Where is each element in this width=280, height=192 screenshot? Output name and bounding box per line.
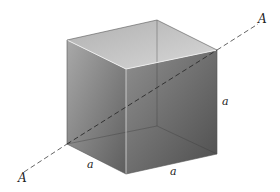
edge-label-depth: a xyxy=(87,158,94,171)
cube-diagram: A A a a a xyxy=(0,0,280,192)
axis-line-upper xyxy=(217,24,258,50)
edge-label-width: a xyxy=(170,165,177,178)
axis-line-lower xyxy=(24,144,67,172)
axis-label-start: A xyxy=(17,171,27,185)
edge-label-height: a xyxy=(222,95,229,108)
axis-label-end: A xyxy=(257,12,267,26)
cube-right-face xyxy=(126,50,217,174)
